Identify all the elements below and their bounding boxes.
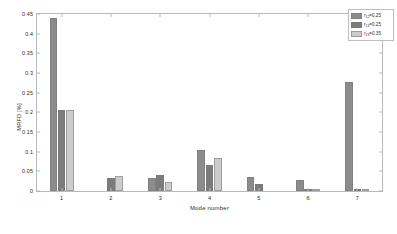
bar: [165, 182, 173, 191]
y-axis-tick-mark: [37, 33, 40, 34]
x-axis-tick-mark: [258, 14, 259, 17]
y-axis-tick-label: 0.25: [22, 90, 33, 96]
x-axis-tick-mark: [308, 188, 309, 191]
plot-area: 00.050.10.150.20.250.30.350.40.451234567: [37, 14, 382, 191]
bar: [312, 189, 320, 191]
x-axis-tick-mark: [160, 14, 161, 17]
y-axis-label: MRFD [%]: [16, 103, 22, 130]
bar: [148, 178, 156, 191]
x-axis-tick-label: 7: [356, 195, 359, 201]
y-axis-tick-label: 0.3: [25, 70, 33, 76]
bar: [247, 177, 255, 191]
plot-frame: 00.050.10.150.20.250.30.350.40.451234567: [36, 13, 383, 192]
x-axis-tick-label: 6: [307, 195, 310, 201]
bar: [50, 18, 58, 191]
legend-swatch: [351, 22, 362, 29]
y-axis-tick-mark: [37, 73, 40, 74]
y-axis-tick-label: 0.4: [25, 31, 33, 37]
y-axis-tick-label: 0.15: [22, 129, 33, 135]
y-axis-tick-label: 0.1: [25, 149, 33, 155]
legend-swatch: [351, 31, 362, 38]
legend-label: r13=0.25: [364, 23, 381, 28]
legend-item[interactable]: r13=0.25: [351, 21, 391, 30]
y-axis-tick-mark: [379, 191, 382, 192]
chart-legend: r12=0.25r13=0.25r23=0.35: [348, 9, 394, 41]
bar: [115, 176, 123, 191]
legend-item[interactable]: r23=0.35: [351, 30, 391, 39]
bar: [66, 110, 74, 191]
bar: [197, 150, 205, 191]
y-axis-tick-mark: [379, 151, 382, 152]
y-axis-tick-label: 0.45: [22, 11, 33, 17]
y-axis-tick-mark: [37, 171, 40, 172]
bar: [362, 189, 370, 191]
y-axis-tick-mark: [37, 112, 40, 113]
x-axis-tick-mark: [61, 188, 62, 191]
x-axis-tick-mark: [110, 188, 111, 191]
y-axis-tick-label: 0: [30, 188, 33, 194]
y-axis-tick-mark: [37, 53, 40, 54]
x-axis-label: Mode number: [36, 205, 383, 211]
y-axis-tick-label: 0.35: [22, 50, 33, 56]
bar: [296, 180, 304, 191]
y-axis-tick-mark: [379, 73, 382, 74]
y-axis-tick-mark: [37, 132, 40, 133]
bar: [345, 82, 353, 191]
x-axis-tick-label: 3: [159, 195, 162, 201]
y-axis-tick-label: 0.2: [25, 109, 33, 115]
bar: [58, 110, 66, 191]
x-axis-tick-label: 1: [60, 195, 63, 201]
legend-item[interactable]: r12=0.25: [351, 12, 391, 21]
y-axis-tick-mark: [37, 14, 40, 15]
x-axis-tick-label: 4: [208, 195, 211, 201]
x-axis-tick-mark: [110, 14, 111, 17]
y-axis-tick-mark: [379, 112, 382, 113]
y-axis-tick-mark: [37, 151, 40, 152]
legend-label: r12=0.25: [364, 14, 381, 19]
x-axis-tick-mark: [209, 188, 210, 191]
figure-canvas: MRFD [%] 00.050.10.150.20.250.30.350.40.…: [0, 0, 397, 234]
y-axis-tick-mark: [379, 92, 382, 93]
y-axis-tick-mark: [37, 92, 40, 93]
y-axis-tick-mark: [37, 191, 40, 192]
y-axis-tick-mark: [379, 132, 382, 133]
x-axis-tick-mark: [357, 188, 358, 191]
x-axis-tick-label: 5: [257, 195, 260, 201]
legend-swatch: [351, 13, 362, 20]
x-axis-tick-mark: [209, 14, 210, 17]
y-axis-tick-mark: [379, 53, 382, 54]
x-axis-tick-mark: [61, 14, 62, 17]
bar: [214, 158, 222, 191]
legend-label: r23=0.35: [364, 32, 381, 37]
x-axis-tick-mark: [258, 188, 259, 191]
x-axis-tick-mark: [160, 188, 161, 191]
y-axis-tick-mark: [379, 171, 382, 172]
x-axis-tick-mark: [308, 14, 309, 17]
y-axis-tick-label: 0.05: [22, 168, 33, 174]
x-axis-tick-label: 2: [109, 195, 112, 201]
